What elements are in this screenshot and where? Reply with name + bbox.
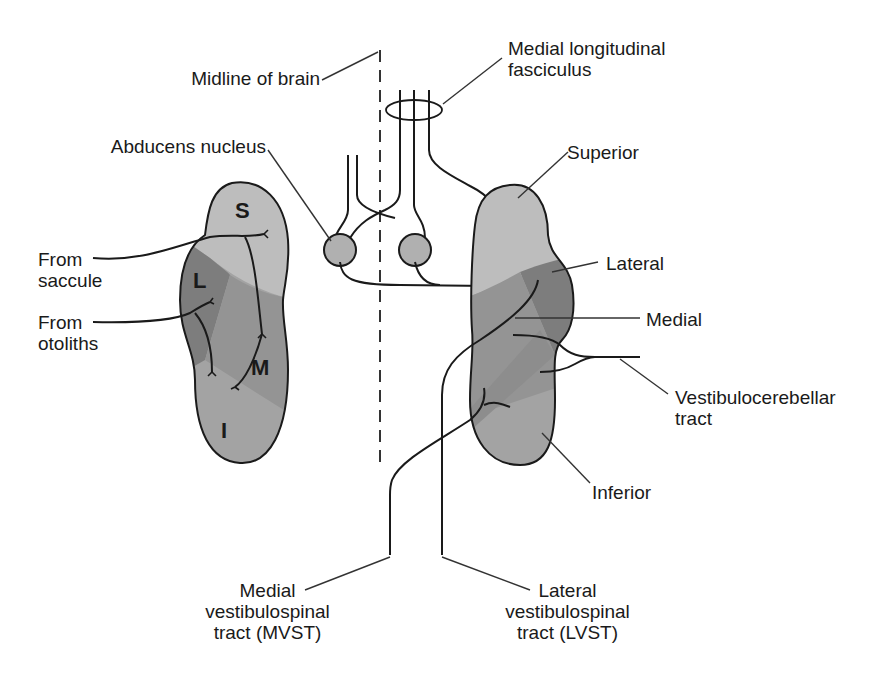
label-inferior: Inferior (592, 482, 651, 503)
diagram-artwork (0, 0, 883, 677)
label-from-saccule-line2: saccule (38, 270, 102, 291)
vestibular-nuclei-diagram: Midline of brain Medial longitudinal fas… (0, 0, 883, 677)
label-medial: Medial (646, 309, 702, 330)
abducens-nucleus-right (399, 234, 431, 266)
label-midline-of-brain: Midline of brain (150, 68, 320, 89)
label-from-otoliths-line1: From (38, 312, 82, 333)
label-mlf-line2: fasciculus (508, 59, 591, 80)
letter-medial: M (251, 355, 269, 381)
label-mvst-line2: vestibulospinal (200, 601, 335, 622)
left-vestibular-complex (93, 170, 300, 470)
label-from-saccule-line1: From (38, 249, 82, 270)
letter-lateral: L (193, 268, 206, 294)
label-lvst-line2: vestibulospinal (500, 601, 635, 622)
label-vestibulocerebellar-line1: Vestibulocerebellar (675, 387, 836, 408)
label-mvst-line1: Medial (200, 580, 335, 601)
label-lateral: Lateral (606, 253, 664, 274)
label-superior: Superior (567, 142, 639, 163)
label-lvst-line3: tract (LVST) (500, 622, 635, 643)
label-from-otoliths-line2: otoliths (38, 333, 98, 354)
label-vestibulocerebellar-line2: tract (675, 408, 712, 429)
letter-superior: S (235, 198, 250, 224)
label-mlf-line1: Medial longitudinal (508, 38, 665, 59)
letter-inferior: I (221, 418, 227, 444)
label-mvst-line3: tract (MVST) (200, 622, 335, 643)
label-lvst-line1: Lateral (500, 580, 635, 601)
label-abducens-nucleus: Abducens nucleus (60, 136, 266, 157)
